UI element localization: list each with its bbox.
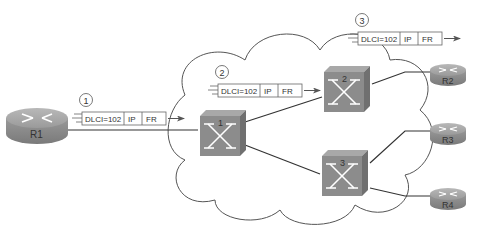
switch-3[interactable]: 3 [322,150,368,196]
fr-field: FR [422,35,433,44]
ip-field: IP [264,87,272,96]
frame-step-1: 1 DLCI=102 IP FR [72,94,184,126]
fr-field: FR [146,115,157,124]
switch-label-2: 2 [342,74,347,84]
frame-step-3: 3 DLCI=102 IP FR [348,14,460,46]
router-r4[interactable]: R4 [430,188,466,210]
switch-label-3: 3 [340,158,345,168]
router-r1[interactable]: R1 [6,108,68,144]
svg-text:1: 1 [84,96,89,106]
switch-2[interactable]: 2 [324,66,370,112]
switch-1[interactable]: 1 [200,110,246,156]
dlci-field: DLCI=102 [361,35,398,44]
switch-label-1: 1 [218,118,223,128]
svg-text:2: 2 [220,68,225,78]
router-label-r1: R1 [30,129,43,140]
router-label-r4: R4 [442,200,454,210]
ip-field: IP [404,35,412,44]
router-r3[interactable]: R3 [430,123,466,145]
router-label-r3: R3 [442,135,454,145]
svg-text:3: 3 [360,16,365,26]
dlci-field: DLCI=102 [85,115,122,124]
router-label-r2: R2 [442,76,454,86]
fr-field: FR [282,87,293,96]
ip-field: IP [128,115,136,124]
motion-lines-icon [72,114,82,122]
frame-relay-diagram: R1 R2 R3 R4 [0,0,478,228]
router-r2[interactable]: R2 [430,64,466,86]
dlci-field: DLCI=102 [221,87,258,96]
